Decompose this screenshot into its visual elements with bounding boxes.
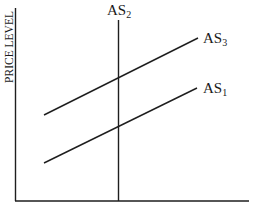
curve-label-as2: AS2	[107, 2, 131, 18]
curve-label-as1-subscript: 1	[222, 87, 227, 98]
curve-label-as1: AS1	[203, 80, 227, 96]
curve-as3	[44, 38, 198, 115]
curve-as1	[44, 88, 197, 163]
curve-label-as2-subscript: 2	[126, 9, 131, 20]
curve-label-as2-name: AS	[107, 2, 126, 18]
curve-label-as1-name: AS	[203, 80, 222, 96]
curve-label-as3-name: AS	[203, 30, 222, 46]
y-axis-label: PRICE LEVEL	[2, 7, 16, 87]
curve-label-as3: AS3	[203, 30, 227, 46]
curve-label-as3-subscript: 3	[222, 37, 227, 48]
